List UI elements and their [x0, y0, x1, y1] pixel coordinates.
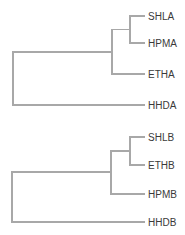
- dendrogram-canvas: SHLA HPMA ETHA HHDA SHLB ETHB HPMB HHDB: [0, 0, 185, 235]
- tree-a: SHLA HPMA ETHA HHDA: [13, 11, 177, 111]
- leaf-label: ETHB: [148, 160, 175, 171]
- leaf-label: HHDB: [148, 217, 177, 228]
- leaf-label: ETHA: [148, 69, 175, 80]
- branch-clade-etha: [112, 30, 145, 75]
- leaf-label: HPMB: [148, 189, 177, 200]
- branch-root-b: [12, 172, 145, 222]
- tree-b: SHLB ETHB HPMB HHDB: [12, 132, 177, 228]
- branch-shlb-ethb: [130, 137, 145, 165]
- leaf-label: HHDA: [148, 100, 177, 111]
- branch-clade-hpmb: [111, 151, 145, 194]
- leaf-label: HPMA: [148, 38, 177, 49]
- branch-root-a: [13, 52, 145, 105]
- branch-shla-hpma: [130, 16, 145, 43]
- leaf-label: SHLA: [148, 11, 174, 22]
- leaf-label: SHLB: [148, 132, 174, 143]
